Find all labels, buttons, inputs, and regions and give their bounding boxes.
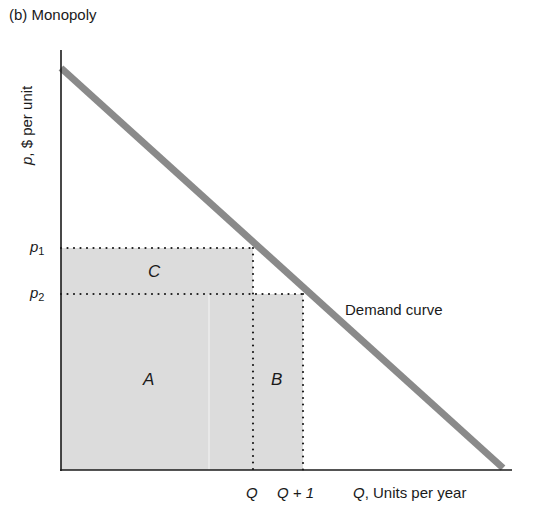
p2-label: p2 — [30, 284, 44, 303]
area-c-label: C — [148, 262, 160, 282]
x-axis-label: Q, Units per year — [353, 484, 466, 501]
q-plus-one-tick-label: Q + 1 — [277, 484, 314, 501]
area-a-label: A — [143, 370, 154, 390]
p1-label: p1 — [30, 238, 44, 257]
area-b-label: B — [271, 370, 282, 390]
q-tick-label: Q — [246, 484, 258, 501]
y-axis-label: p, $ per unit — [18, 86, 35, 165]
demand-curve-label: Demand curve — [345, 301, 443, 318]
monopoly-diagram — [0, 0, 533, 512]
